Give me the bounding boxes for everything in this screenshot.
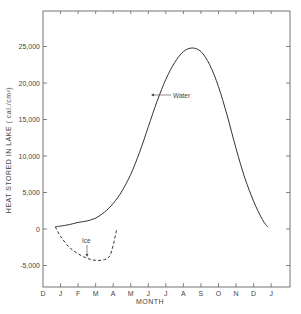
x-tick-label: D — [40, 290, 45, 297]
y-tick-label: -5,000 — [20, 262, 40, 269]
y-tick-label: 15,000 — [19, 116, 41, 123]
x-tick-label: O — [216, 290, 222, 297]
water-label: Water — [173, 92, 191, 99]
x-tick-label: J — [147, 290, 151, 297]
water-annotation: Water — [151, 92, 191, 99]
x-tick-label: M — [93, 290, 99, 297]
plot-frame — [43, 11, 290, 287]
y-axis-tick-labels: 25,00020,00015,00010,0005,0000-5,000 — [19, 43, 41, 269]
x-axis-tick-labels: DJFMAMJJASONDJ — [40, 290, 272, 297]
x-axis-ticks — [61, 283, 272, 287]
y-axis-ticks — [43, 47, 47, 266]
water-arrow-icon — [151, 94, 154, 97]
x-tick-label: A — [181, 290, 186, 297]
chart: DJFMAMJJASONDJ 25,00020,00015,00010,0005… — [0, 0, 301, 314]
ice-arrow-icon — [86, 254, 89, 257]
x-tick-label: J — [164, 290, 168, 297]
y-tick-label: 25,000 — [19, 43, 41, 50]
y-tick-label: 10,000 — [19, 153, 41, 160]
y-tick-label: 0 — [36, 226, 40, 233]
x-axis-title: MONTH — [136, 298, 164, 305]
y-tick-label: 20,000 — [19, 80, 41, 87]
x-tick-label: M — [128, 290, 134, 297]
x-tick-label: J — [59, 290, 63, 297]
x-tick-label: J — [269, 290, 273, 297]
x-tick-label: A — [111, 290, 116, 297]
y-axis-title: HEAT STORED IN LAKE ( cal./cm²) — [5, 87, 13, 213]
y-tick-label: 5,000 — [22, 189, 40, 196]
x-tick-label: D — [251, 290, 256, 297]
x-tick-label: N — [234, 290, 239, 297]
ice-label: Ice — [82, 237, 91, 244]
ice-annotation: Ice — [82, 237, 91, 257]
right-axis-ticks — [286, 47, 290, 266]
x-tick-label: F — [76, 290, 80, 297]
water-series-line — [55, 48, 267, 227]
x-tick-label: S — [199, 290, 204, 297]
